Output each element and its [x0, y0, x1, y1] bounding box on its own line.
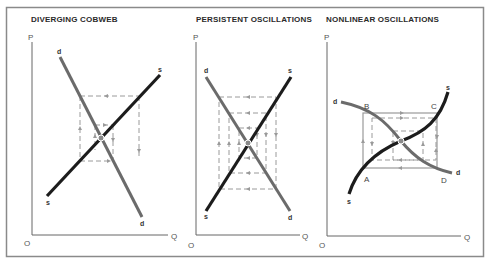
- point-label-d: D: [441, 176, 447, 185]
- supply-label-top: s: [288, 67, 292, 74]
- panel-diverging-cobweb: DIVERGING COBWEB P Q O d: [24, 15, 177, 248]
- supply-label-bottom: s: [204, 213, 208, 220]
- origin-label: O: [24, 239, 30, 248]
- panel-title: DIVERGING COBWEB: [31, 15, 118, 24]
- panel-persistent-oscillations: PERSISTENT OSCILLATIONS P Q O: [188, 15, 312, 250]
- demand-label-bottom: d: [456, 169, 460, 176]
- supply-label-bottom: s: [46, 199, 50, 206]
- point-label-a: A: [364, 175, 370, 184]
- origin-label: O: [319, 241, 325, 250]
- supply-label-bottom: s: [347, 198, 351, 205]
- figure-frame: [7, 8, 484, 257]
- axis-label-p: P: [193, 33, 198, 42]
- origin-label: O: [188, 241, 194, 250]
- cobweb-diagram-figure: DIVERGING COBWEB P Q O d: [0, 0, 490, 263]
- demand-label-top: d: [204, 67, 208, 74]
- panel-nonlinear-oscillations: NONLINEAR OSCILLATIONS P Q O d: [319, 15, 470, 250]
- axis-label-q: Q: [464, 233, 470, 242]
- axis-label-p: P: [324, 33, 329, 42]
- axis-label-q: Q: [171, 232, 177, 241]
- axis-label-p: P: [28, 33, 33, 42]
- equilibrium-point: [245, 140, 251, 146]
- panel-title: PERSISTENT OSCILLATIONS: [196, 15, 312, 24]
- panel-title: NONLINEAR OSCILLATIONS: [326, 15, 440, 24]
- demand-label-bottom: d: [288, 214, 292, 221]
- supply-label-top: s: [446, 84, 450, 91]
- point-label-b: B: [364, 102, 369, 111]
- axis-label-q: Q: [302, 232, 308, 241]
- equilibrium-point: [98, 135, 104, 141]
- supply-label-top: s: [158, 66, 162, 73]
- demand-label-top: d: [333, 98, 337, 105]
- demand-label-bottom: d: [140, 220, 144, 227]
- equilibrium-point: [398, 138, 404, 144]
- demand-label-top: d: [57, 48, 61, 55]
- point-label-c: C: [431, 102, 437, 111]
- supply-curve: [47, 75, 160, 196]
